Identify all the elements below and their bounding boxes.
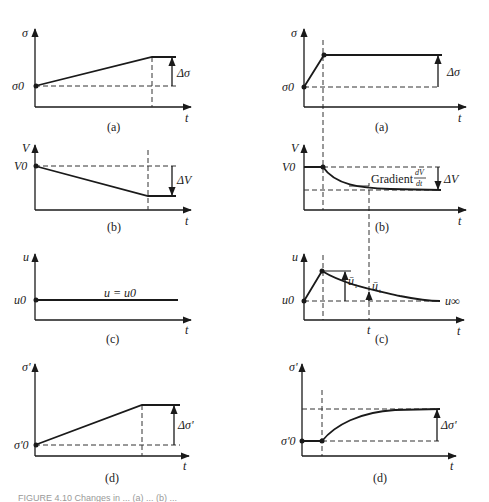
- panel-label: (a): [107, 120, 120, 134]
- panel-label: (b): [107, 220, 121, 234]
- figure-caption: FIGURE 4.10 Changes in ... (a) ... (b) .…: [18, 493, 177, 502]
- origin-label: σ'0: [281, 434, 295, 448]
- panel-label: (b): [375, 220, 389, 234]
- panel-label: (c): [375, 332, 388, 346]
- load-point: [322, 53, 327, 58]
- y-axis-label: V: [291, 141, 300, 155]
- stress-curve: [35, 57, 176, 86]
- origin-label: σ0: [282, 80, 294, 94]
- x-axis-label: t: [185, 323, 189, 337]
- delta-label: Δσ': [177, 418, 194, 432]
- left-panel-c: u t u0 u = u0 (c): [14, 250, 191, 346]
- origin-label: V0: [282, 160, 295, 174]
- delta-label: ΔV: [443, 172, 460, 186]
- y-axis-label: u: [23, 250, 29, 264]
- start-point: [34, 443, 39, 448]
- start-point: [34, 164, 39, 169]
- initial-excess-sub: i: [355, 282, 357, 290]
- delta-label: Δσ: [176, 66, 191, 80]
- left-panel-a: σ t σ0 Δσ (a): [12, 26, 191, 134]
- gradient-numerator: dV: [415, 168, 425, 177]
- x-axis-label: t: [458, 111, 462, 125]
- excess-at-t-label: ū: [372, 279, 378, 293]
- y-axis-label: σ: [22, 26, 29, 40]
- delta-label: ΔV: [176, 173, 193, 187]
- right-panel-c: u t t u0 ū i ū t u∞ (c): [282, 250, 464, 346]
- start-point: [300, 439, 305, 444]
- start-point: [34, 84, 39, 89]
- x-axis-label: t: [450, 459, 454, 473]
- origin-label: σ0: [12, 79, 24, 93]
- right-panel-b: V t V0 Gradient dV dt ΔV (b): [282, 141, 466, 234]
- load-point: [321, 165, 326, 170]
- x-axis-label: t: [183, 459, 187, 473]
- panel-label: (d): [373, 471, 387, 485]
- consolidation-figure: σ t σ0 Δσ (a) V t V0 ΔV (b) u t u0 u = u…: [0, 0, 489, 502]
- gradient-label: Gradient: [371, 172, 414, 186]
- left-panel-b: V t V0 ΔV (b): [14, 141, 193, 234]
- gradient-denominator: dt: [416, 179, 423, 188]
- origin-label: u0: [282, 293, 294, 307]
- x-axis-label: t: [185, 214, 189, 228]
- x-axis-label: t: [185, 111, 189, 125]
- origin-label: σ'0: [14, 438, 28, 452]
- peak-point: [320, 269, 325, 274]
- start-point: [302, 299, 307, 304]
- effective-stress-curve: [302, 409, 440, 441]
- y-axis-label: σ': [289, 360, 298, 374]
- start-point: [34, 298, 39, 303]
- initial-excess-label: ū: [348, 274, 354, 288]
- panel-label: (d): [105, 471, 119, 485]
- y-axis-label: u: [292, 250, 298, 264]
- load-point: [320, 439, 325, 444]
- y-axis-label: σ: [291, 26, 298, 40]
- delta-label: Δσ': [440, 418, 457, 432]
- delta-label: Δσ: [446, 65, 461, 79]
- panel-label: (a): [375, 120, 388, 134]
- y-axis-label: V: [22, 141, 31, 155]
- y-axis-label: σ': [22, 360, 31, 374]
- right-panel-d: σ' t σ'0 Δσ' (d): [281, 360, 457, 485]
- time-t-label: t: [367, 323, 371, 337]
- left-panel-d: σ' t σ'0 Δσ' (d): [14, 360, 194, 485]
- final-label: u∞: [445, 294, 460, 308]
- start-point: [302, 85, 307, 90]
- origin-label: V0: [14, 159, 27, 173]
- effective-stress-curve: [35, 405, 180, 445]
- volume-curve: [35, 166, 176, 196]
- stress-curve: [304, 55, 442, 87]
- excess-at-t-sub: t: [379, 287, 381, 295]
- x-axis-label: t: [458, 214, 462, 228]
- origin-label: u0: [14, 293, 26, 307]
- right-panel-a: σ t σ0 Δσ (a): [282, 26, 466, 134]
- curve-label: u = u0: [104, 286, 136, 300]
- x-axis-label: t: [457, 324, 461, 338]
- panel-label: (c): [106, 332, 119, 346]
